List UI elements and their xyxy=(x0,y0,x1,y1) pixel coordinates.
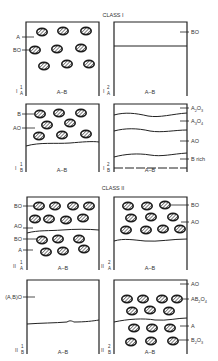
svg-text:A–B: A–B xyxy=(145,349,156,355)
svg-text:A: A xyxy=(191,323,195,329)
svg-text:II: II xyxy=(101,263,104,269)
svg-text:A3O4: A3O4 xyxy=(191,118,203,126)
svg-text:AO: AO xyxy=(14,223,23,229)
panel-i-1-a: A BO I 1 A A–B xyxy=(13,22,99,96)
svg-text:BO: BO xyxy=(191,202,200,208)
svg-text:A2O3: A2O3 xyxy=(191,105,203,113)
svg-text:AO: AO xyxy=(191,219,200,225)
panel-i-2-a: BO I 2 A A–B xyxy=(103,22,200,96)
label-bo: BO xyxy=(13,47,22,53)
svg-text:AB2O4: AB2O4 xyxy=(191,296,207,304)
svg-text:A–B: A–B xyxy=(58,349,69,355)
svg-text:2: 2 xyxy=(107,162,110,167)
label-bo: BO xyxy=(191,29,200,35)
svg-text:II: II xyxy=(15,347,18,353)
svg-text:1: 1 xyxy=(21,344,24,349)
svg-text:I: I xyxy=(15,165,16,171)
label-a: A xyxy=(16,34,20,40)
svg-text:AO: AO xyxy=(191,138,200,144)
oxidation-classes-diagram: CLASS I A BO I 1 A A–B BO I 2 A A–B B AO xyxy=(0,0,218,361)
svg-text:BO: BO xyxy=(14,203,23,209)
svg-text:(A,B)O: (A,B)O xyxy=(5,294,23,300)
svg-text:B: B xyxy=(107,168,110,173)
panel-i-2-b: A2O3 A3O4 AO B rich I 2 B A–B xyxy=(103,104,205,173)
svg-text:A–B: A–B xyxy=(58,265,69,271)
svg-text:1: 1 xyxy=(20,260,23,265)
svg-text:B: B xyxy=(21,350,24,355)
panel-ii-1-b: (A,B)O II 1 B A–B xyxy=(5,280,99,355)
svg-text:A: A xyxy=(18,247,22,253)
svg-text:AO: AO xyxy=(191,281,200,287)
svg-text:2: 2 xyxy=(108,344,111,349)
panel-ii-2-a: BO AO II 2 A A–B xyxy=(101,197,200,271)
panel-id-sub: A xyxy=(20,91,23,96)
panel-ii-2-b: AO AB2O4 A B2O3 II 2 B A–B xyxy=(101,280,207,355)
svg-text:A: A xyxy=(107,91,110,96)
svg-text:BO: BO xyxy=(14,236,23,242)
svg-text:B: B xyxy=(20,168,23,173)
svg-text:B: B xyxy=(108,350,111,355)
svg-text:A–B: A–B xyxy=(57,167,68,173)
svg-text:A–B: A–B xyxy=(145,265,156,271)
axis-label: A–B xyxy=(57,89,68,95)
svg-text:A: A xyxy=(20,266,23,271)
svg-text:I: I xyxy=(103,88,104,94)
panel-ii-1-a: BO AO BO A II 1 A A–B xyxy=(13,197,99,271)
class-ii-title: CLASS II xyxy=(102,185,125,191)
svg-text:A–B: A–B xyxy=(145,89,156,95)
svg-text:AO: AO xyxy=(13,125,22,131)
svg-text:II: II xyxy=(13,263,16,269)
panel-i-1-b: B AO I 1 B A–B xyxy=(13,104,99,173)
svg-text:B: B xyxy=(17,111,21,117)
svg-text:1: 1 xyxy=(20,162,23,167)
svg-text:II: II xyxy=(101,347,104,353)
class-i-title: CLASS I xyxy=(102,12,124,18)
svg-text:B2O3: B2O3 xyxy=(191,337,203,345)
svg-text:A: A xyxy=(108,266,111,271)
svg-text:2: 2 xyxy=(108,260,111,265)
svg-text:2: 2 xyxy=(107,85,110,90)
panel-id-roman: I xyxy=(16,88,17,94)
svg-text:B rich: B rich xyxy=(191,156,205,162)
panel-id-sup: 1 xyxy=(20,85,23,90)
svg-text:I: I xyxy=(103,165,104,171)
svg-text:A–B: A–B xyxy=(145,167,156,173)
